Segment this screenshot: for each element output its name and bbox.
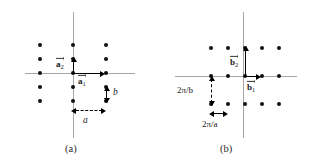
vector-b2-subscript: 2 [235,61,238,68]
lattice-figure: a2 a1 b a (a) [0,0,314,165]
vector-a2-base: a [56,59,61,69]
lattice-point [71,43,75,47]
lattice-point [277,74,281,78]
lattice-point [38,99,42,103]
vector-a1-label: a1 [78,77,86,86]
dimension-2pi-over-a-label: 2π/a [202,120,218,129]
vector-b2-shaft [245,50,246,76]
dimension-a-label: a [83,116,88,126]
vector-arrow-overbar-icon [230,54,238,58]
lattice-point [104,43,108,47]
vertical-axis-a [73,12,74,138]
lattice-point [38,43,42,47]
dimension-2pi-over-b-arrowhead-top [209,76,215,81]
panel-b-caption: (b) [220,143,232,154]
dimension-2pi-over-b-line [211,79,212,103]
vector-a2-label: a2 [56,60,64,69]
panel-reciprocal-lattice: b2 b1 2π/b 2π/a (b) [157,0,314,165]
vector-a1-arrowhead [100,71,105,77]
lattice-point [277,46,281,50]
lattice-point [226,46,230,50]
lattice-point [38,85,42,89]
vector-a2-arrowhead [71,57,77,62]
lattice-point [243,102,247,106]
dimension-2pi-over-b-label: 2π/b [177,86,193,95]
vector-b2-arrowhead [243,46,249,51]
vector-arrow-overbar-icon [247,79,255,83]
dimension-a-line [76,110,102,111]
lattice-point [71,85,75,89]
vector-a2-subscript: 2 [61,63,64,70]
lattice-point [71,99,75,103]
vector-arrow-overbar-icon [56,56,64,60]
vector-b1-subscript: 1 [252,86,255,93]
lattice-point [226,74,230,78]
vector-b1-label: b1 [247,83,255,92]
dimension-a-arrowhead-right [101,108,106,114]
vector-arrow-overbar-icon [78,73,86,77]
lattice-point [38,57,42,61]
lattice-point [260,46,264,50]
dimension-b-arrowhead-top [104,86,110,91]
lattice-point-origin [38,71,42,75]
dimension-b-label: b [113,88,118,98]
dimension-2pi-over-b-arrowhead-bottom [209,101,215,106]
panel-direct-lattice: a2 a1 b a (a) [0,0,157,165]
dimension-a-arrowhead-left [71,108,76,114]
lattice-point [226,102,230,106]
vector-b2-label: b2 [230,58,238,67]
dimension-b-arrowhead-bottom [104,98,110,103]
lattice-point [277,102,281,106]
vector-a1-subscript: 1 [83,80,86,87]
lattice-point [209,46,213,50]
lattice-point [260,102,264,106]
vector-b1-arrowhead [256,74,261,80]
vector-a1-base: a [78,76,83,86]
lattice-point [104,57,108,61]
panel-a-caption: (a) [65,143,77,154]
dimension-2pi-over-a-arrowhead-right [223,111,228,117]
dimension-2pi-over-a-arrowhead-left [209,111,214,117]
